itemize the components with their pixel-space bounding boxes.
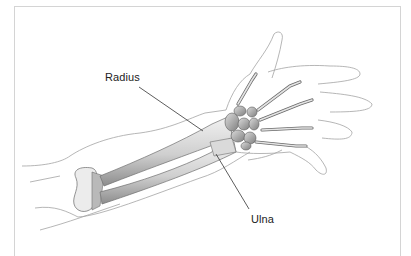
ulna-label: Ulna: [251, 213, 274, 225]
elbow-bones: [74, 167, 104, 211]
radius-leader-line: [139, 87, 203, 131]
radius-label: Radius: [105, 71, 140, 83]
